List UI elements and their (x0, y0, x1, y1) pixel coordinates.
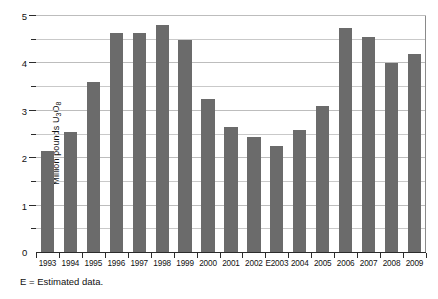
bar (110, 33, 123, 253)
bar (87, 82, 100, 253)
x-axis-tick (265, 253, 266, 258)
y-axis-zero-label: 0 (22, 247, 27, 258)
bar-cell (151, 16, 174, 253)
y-axis-tick-label: 4 (22, 58, 27, 69)
x-axis-tick (357, 253, 358, 258)
bar (339, 28, 352, 253)
x-axis-label: 1993 (36, 259, 59, 268)
plot-right-border (425, 16, 426, 253)
x-axis-tick (380, 253, 381, 258)
bar-series (36, 16, 426, 253)
x-axis-label: 1998 (151, 259, 174, 268)
bar-cell (128, 16, 151, 253)
y-axis-tick (29, 205, 36, 206)
x-axis-label: 1996 (105, 259, 128, 268)
bar-cell (197, 16, 220, 253)
x-axis-label: 2001 (220, 259, 243, 268)
bar (247, 137, 260, 253)
y-axis-tick-label: 2 (22, 153, 27, 164)
bar (201, 99, 214, 253)
x-axis-label: 1994 (59, 259, 82, 268)
y-axis-tick (29, 15, 36, 16)
bar-cell (220, 16, 243, 253)
x-axis-tick (151, 253, 152, 258)
x-axis-label: 2004 (288, 259, 311, 268)
bar-cell (357, 16, 380, 253)
bar-cell (242, 16, 265, 253)
x-axis-label: 2007 (357, 259, 380, 268)
x-axis-label: 2002 (242, 259, 265, 268)
y-axis-tick-label: 3 (22, 105, 27, 116)
bar-cell (265, 16, 288, 253)
bar (41, 151, 54, 253)
x-axis-tick (174, 253, 175, 258)
bar (270, 146, 283, 253)
x-axis-tick (242, 253, 243, 258)
bar-cell (403, 16, 426, 253)
x-axis-tick (288, 253, 289, 258)
bar-cell (380, 16, 403, 253)
x-axis-label: 2005 (311, 259, 334, 268)
x-axis-tick (36, 253, 37, 258)
bar-cell (334, 16, 357, 253)
x-axis-tick (197, 253, 198, 258)
y-axis-tick-label: 5 (22, 11, 27, 22)
x-axis-tick (59, 253, 60, 258)
x-axis-label: 1995 (82, 259, 105, 268)
x-axis-tick (220, 253, 221, 258)
x-axis-tick (426, 253, 427, 258)
plot-area: 12345 (36, 16, 426, 253)
x-axis-labels: 1993199419951996199719981999200020012002… (36, 259, 426, 268)
bar (224, 127, 237, 253)
bar-cell (105, 16, 128, 253)
x-axis-label: 2006 (334, 259, 357, 268)
x-axis-tick (128, 253, 129, 258)
x-axis-label: 2000 (197, 259, 220, 268)
x-axis-ticks (36, 253, 426, 258)
bar (293, 130, 306, 253)
x-axis-label: 2009 (403, 259, 426, 268)
y-axis-tick (29, 110, 36, 111)
bar (178, 40, 191, 253)
bar-cell (174, 16, 197, 253)
chart-footnote: E = Estimated data. (20, 276, 103, 287)
bar-chart-figure: Million pounds U3O8 12345 19931994199519… (0, 0, 438, 299)
x-axis-tick (334, 253, 335, 258)
x-axis-label: E2003 (265, 259, 288, 268)
bar-cell (59, 16, 82, 253)
bar (64, 132, 77, 253)
x-axis-label: 1999 (174, 259, 197, 268)
bar (156, 25, 169, 253)
bar (385, 63, 398, 253)
x-axis-tick (82, 253, 83, 258)
bar-cell (311, 16, 334, 253)
x-axis-tick (105, 253, 106, 258)
bar-cell (36, 16, 59, 253)
x-axis-tick (403, 253, 404, 258)
x-axis-label: 1997 (128, 259, 151, 268)
bar (408, 54, 421, 253)
bar-cell (288, 16, 311, 253)
bar (316, 106, 329, 253)
y-axis-tick (29, 157, 36, 158)
bar (133, 33, 146, 253)
x-axis-tick (311, 253, 312, 258)
bar-cell (82, 16, 105, 253)
bar (362, 37, 375, 253)
y-axis-tick (29, 62, 36, 63)
y-axis-tick-label: 1 (22, 200, 27, 211)
x-axis-label: 2008 (380, 259, 403, 268)
